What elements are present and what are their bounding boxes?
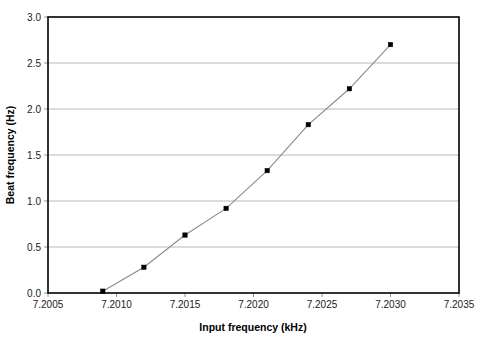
data-point-marker: [265, 168, 269, 172]
data-point-marker: [306, 122, 310, 126]
x-tick-label: 7.2005: [33, 299, 64, 310]
data-point-marker: [183, 233, 187, 237]
data-point-marker: [101, 289, 105, 293]
y-tick-label: 3.0: [27, 12, 41, 23]
data-point-marker: [142, 265, 146, 269]
data-point-marker: [224, 206, 228, 210]
data-point-marker: [347, 87, 351, 91]
beat-frequency-line-chart: 7.20057.20107.20157.20207.20257.20307.20…: [0, 0, 483, 338]
x-axis-title: Input frequency (kHz): [199, 321, 306, 333]
x-tick-label: 7.2030: [375, 299, 406, 310]
x-tick-label: 7.2020: [238, 299, 269, 310]
chart-background: [0, 0, 483, 338]
y-tick-label: 1.0: [27, 196, 41, 207]
chart-container: 7.20057.20107.20157.20207.20257.20307.20…: [0, 0, 483, 338]
x-tick-label: 7.2015: [170, 299, 201, 310]
y-tick-label: 0.0: [27, 288, 41, 299]
x-tick-label: 7.2010: [101, 299, 132, 310]
data-point-marker: [388, 42, 392, 46]
x-tick-label: 7.2035: [444, 299, 475, 310]
x-tick-label: 7.2025: [307, 299, 338, 310]
y-axis-title: Beat frequency (Hz): [4, 106, 16, 205]
y-tick-label: 1.5: [27, 150, 41, 161]
y-tick-label: 2.5: [27, 58, 41, 69]
y-tick-label: 2.0: [27, 104, 41, 115]
y-tick-label: 0.5: [27, 242, 41, 253]
